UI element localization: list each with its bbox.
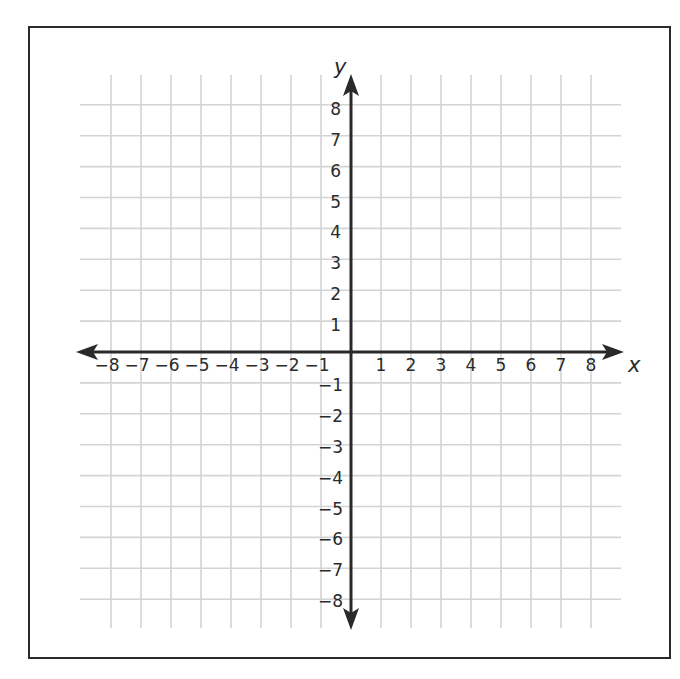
y-tick-label: −1: [318, 375, 343, 395]
y-tick-label: 4: [330, 222, 341, 242]
coordinate-plane: y x −8−7−6−5−4−3−2−112345678 12345678−1−…: [0, 0, 680, 679]
x-tick-label: 2: [406, 355, 417, 375]
x-tick-label: 5: [496, 355, 507, 375]
x-tick-labels: −8−7−6−5−4−3−2−112345678: [94, 355, 596, 375]
x-tick-label: −2: [274, 355, 299, 375]
y-tick-label: −8: [318, 591, 343, 611]
x-axis-label: x: [627, 353, 641, 377]
x-tick-label: 4: [466, 355, 477, 375]
y-tick-label: 3: [330, 253, 341, 273]
x-tick-label: −5: [184, 355, 209, 375]
x-tick-label: −1: [304, 355, 329, 375]
y-tick-label: −5: [318, 499, 343, 519]
y-tick-label: −3: [318, 437, 343, 457]
x-tick-label: 3: [436, 355, 447, 375]
y-tick-label: 2: [330, 284, 341, 304]
x-tick-label: 1: [376, 355, 387, 375]
x-tick-label: 7: [556, 355, 567, 375]
y-tick-label: −4: [318, 468, 343, 488]
x-tick-label: −8: [94, 355, 119, 375]
y-tick-label: 1: [330, 315, 341, 335]
x-tick-label: −6: [154, 355, 179, 375]
x-tick-label: −4: [214, 355, 239, 375]
y-tick-label: 5: [330, 192, 341, 212]
x-tick-label: 8: [586, 355, 597, 375]
x-tick-label: −7: [124, 355, 149, 375]
y-tick-label: 6: [330, 161, 341, 181]
axes: [76, 74, 624, 630]
y-tick-label: −6: [318, 529, 343, 549]
x-tick-label: 6: [526, 355, 537, 375]
y-axis-label: y: [333, 55, 347, 79]
y-tick-label: −7: [318, 560, 343, 580]
y-tick-label: 8: [330, 99, 341, 119]
x-tick-label: −3: [244, 355, 269, 375]
y-tick-label: −2: [318, 406, 343, 426]
y-tick-label: 7: [330, 130, 341, 150]
